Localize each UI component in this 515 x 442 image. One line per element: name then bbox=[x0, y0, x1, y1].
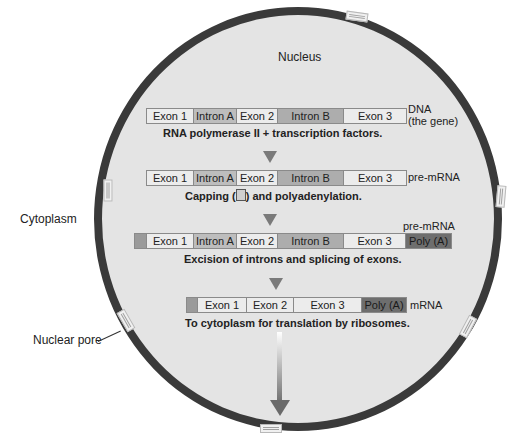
cap bbox=[135, 234, 147, 248]
dna-gene-bar: Exon 1 Intron A Exon 2 Intron B Exon 3 bbox=[146, 108, 407, 124]
capped-pre-mrna-bar: Exon 1 Intron A Exon 2 Intron B Exon 3 P… bbox=[134, 233, 452, 249]
poly-a-tail: Poly (A) bbox=[362, 298, 406, 312]
cap-symbol-icon bbox=[236, 189, 246, 201]
exon-3: Exon 3 bbox=[294, 298, 362, 312]
exon-3: Exon 3 bbox=[344, 234, 406, 248]
exon-1: Exon 1 bbox=[147, 109, 194, 123]
splicing-caption: Excision of introns and splicing of exon… bbox=[184, 253, 402, 265]
the-gene-label: (the gene) bbox=[408, 115, 458, 127]
exon-2: Exon 2 bbox=[247, 298, 294, 312]
mrna-bar: Exon 1 Exon 2 Exon 3 Poly (A) bbox=[186, 297, 407, 313]
export-arrow-head-icon bbox=[270, 400, 290, 416]
nuclear-pore-left bbox=[104, 180, 113, 202]
exon-1: Exon 1 bbox=[147, 234, 194, 248]
intron-b: Intron B bbox=[278, 109, 344, 123]
step-arrow-3 bbox=[269, 278, 283, 290]
exon-1: Exon 1 bbox=[198, 298, 247, 312]
cap bbox=[187, 298, 198, 312]
nucleus bbox=[94, 7, 502, 431]
exon-2: Exon 2 bbox=[237, 171, 278, 185]
mrna-label: mRNA bbox=[410, 299, 442, 311]
capping-caption: Capping () and polyadenylation. bbox=[185, 189, 362, 202]
exon-3: Exon 3 bbox=[344, 171, 406, 185]
step-arrow-2 bbox=[263, 214, 277, 226]
intron-a: Intron A bbox=[194, 234, 237, 248]
capping-caption-start: Capping ( bbox=[185, 190, 236, 202]
capping-caption-end: ) and polyadenylation. bbox=[246, 190, 362, 202]
nuclear-pore-bottom bbox=[260, 424, 282, 433]
export-caption: To cytoplasm for translation by ribosome… bbox=[185, 317, 410, 329]
nuclear-pore-label: Nuclear pore bbox=[33, 333, 102, 347]
export-arrow-stem bbox=[277, 332, 282, 402]
pre-mrna-bar: Exon 1 Intron A Exon 2 Intron B Exon 3 bbox=[146, 170, 407, 186]
dna-label: DNA bbox=[408, 103, 431, 115]
intron-a: Intron A bbox=[194, 171, 237, 185]
cytoplasm-label: Cytoplasm bbox=[20, 212, 77, 226]
exon-2: Exon 2 bbox=[237, 109, 278, 123]
exon-1: Exon 1 bbox=[147, 171, 194, 185]
intron-b: Intron B bbox=[278, 171, 344, 185]
poly-a-tail: Poly (A) bbox=[406, 234, 451, 248]
nuclear-pore-right bbox=[496, 185, 507, 208]
exon-2: Exon 2 bbox=[237, 234, 278, 248]
nucleus-label: Nucleus bbox=[278, 50, 321, 64]
intron-b: Intron B bbox=[278, 234, 344, 248]
step-arrow-1 bbox=[263, 151, 277, 163]
exon-3: Exon 3 bbox=[344, 109, 406, 123]
pre-mrna-label: pre-mRNA bbox=[408, 171, 460, 183]
transcription-caption: RNA polymerase II + transcription factor… bbox=[163, 127, 382, 139]
intron-a: Intron A bbox=[194, 109, 237, 123]
pre-mrna-top-label: pre-mRNA bbox=[403, 220, 455, 232]
